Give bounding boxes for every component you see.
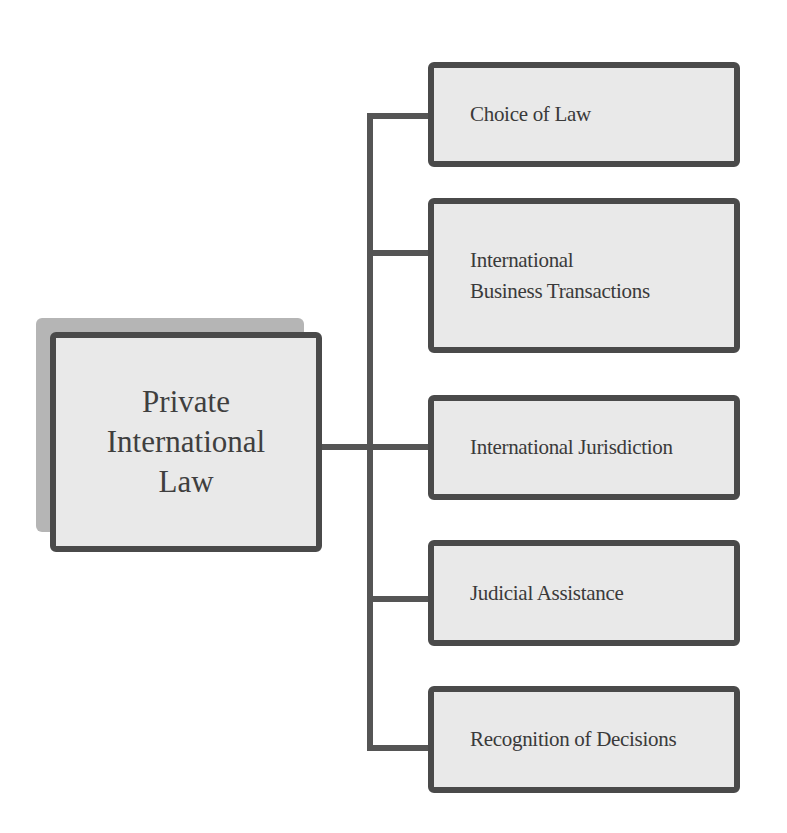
business-transactions-label-line-2: Business Transactions <box>470 276 728 306</box>
child-node-recognition-of-decisions: Recognition of Decisions <box>428 686 740 793</box>
child-node-choice-of-law: Choice of Law <box>428 62 740 167</box>
connector-branch-jurisdiction <box>367 444 431 450</box>
connector-trunk <box>367 113 373 751</box>
connector-branch-judicial-assistance <box>367 596 431 602</box>
business-transactions-label-line-1: International <box>470 245 728 275</box>
child-node-international-jurisdiction: International Jurisdiction <box>428 395 740 500</box>
root-label-line-2: International <box>107 422 265 462</box>
recognition-of-decisions-label: Recognition of Decisions <box>470 724 728 754</box>
root-node-private-international-law: Private International Law <box>50 332 322 552</box>
connector-branch-recognition <box>367 745 431 751</box>
root-label-line-3: Law <box>158 462 213 502</box>
child-node-label: Judicial Assistance <box>470 546 728 640</box>
connector-branch-business-transactions <box>367 250 431 256</box>
connector-branch-choice-of-law <box>367 113 431 119</box>
judicial-assistance-label: Judicial Assistance <box>470 578 728 608</box>
child-node-label: Choice of Law <box>470 68 728 161</box>
child-node-label: International Jurisdiction <box>470 401 728 494</box>
root-node-label: Private International Law <box>56 338 316 546</box>
choice-of-law-label: Choice of Law <box>470 99 728 129</box>
jurisdiction-label: International Jurisdiction <box>470 432 728 462</box>
child-node-international-business-transactions: International Business Transactions <box>428 198 740 353</box>
child-node-label: Recognition of Decisions <box>470 692 728 787</box>
root-label-line-1: Private <box>142 382 230 422</box>
child-node-label: International Business Transactions <box>470 204 728 347</box>
child-node-judicial-assistance: Judicial Assistance <box>428 540 740 646</box>
